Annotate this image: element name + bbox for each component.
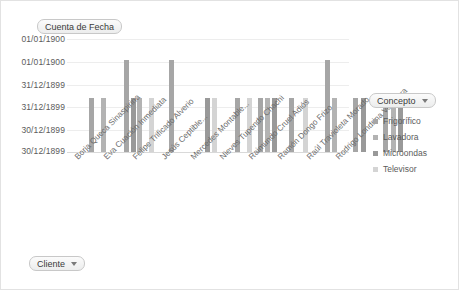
chevron-down-icon[interactable] [71, 262, 77, 266]
y-axis-tick: 30/12/1899 [21, 125, 65, 135]
legend-item[interactable]: Microondas [373, 145, 457, 161]
legend-label: Microondas [383, 148, 427, 158]
pivot-field-label-series: Concepto [377, 96, 416, 106]
legend: FrigoríficoLavadoraMicroondasTelevisor [373, 113, 457, 177]
chevron-down-icon[interactable] [422, 99, 428, 103]
y-axis-tick: 30/12/1899 [21, 146, 65, 156]
legend-swatch-icon [373, 135, 378, 140]
pivot-field-button-cuenta-de-fecha[interactable]: Cuenta de Fecha [37, 19, 122, 34]
bar[interactable] [169, 60, 174, 152]
pivot-field-button-cliente[interactable]: Cliente [29, 256, 85, 271]
legend-swatch-icon [373, 119, 378, 124]
pivot-field-button-concepto[interactable]: Concepto [369, 93, 436, 108]
legend-item[interactable]: Lavadora [373, 129, 457, 145]
legend-label: Frigorífico [383, 116, 421, 126]
legend-item[interactable]: Frigorífico [373, 113, 457, 129]
legend-swatch-icon [373, 151, 378, 156]
pivot-chart-container: Cuenta de Fecha 01/01/1900 01/01/1900 31… [0, 0, 459, 290]
pivot-field-label-row: Cliente [37, 259, 65, 269]
y-axis: 01/01/1900 01/01/1900 31/12/1899 31/12/1… [9, 37, 65, 153]
legend-item[interactable]: Televisor [373, 161, 457, 177]
y-axis-tick: 01/01/1900 [21, 57, 65, 67]
y-axis-tick: 31/12/1899 [21, 80, 65, 90]
legend-label: Lavadora [383, 132, 418, 142]
y-axis-tick: 31/12/1899 [21, 102, 65, 112]
y-axis-tick: 01/01/1900 [21, 34, 65, 44]
x-axis-labels: Borja Queca SinaspirinaEva Cuación Inmed… [67, 155, 357, 241]
pivot-field-label-value: Cuenta de Fecha [45, 22, 114, 32]
legend-label: Televisor [383, 164, 417, 174]
legend-swatch-icon [373, 167, 378, 172]
